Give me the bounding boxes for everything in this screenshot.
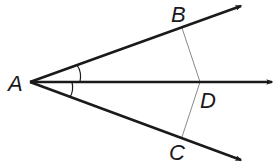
angle-mark-DAC [70, 82, 73, 97]
segment-DC [182, 82, 200, 137]
angle-mark-BAD [77, 65, 81, 82]
label-B: B [171, 2, 186, 27]
label-A: A [6, 71, 23, 96]
angle-bisector-diagram: A B D C [0, 0, 275, 167]
segment-BD [182, 28, 200, 82]
label-D: D [200, 88, 216, 113]
label-C: C [169, 140, 185, 165]
ray-AB [30, 6, 241, 82]
